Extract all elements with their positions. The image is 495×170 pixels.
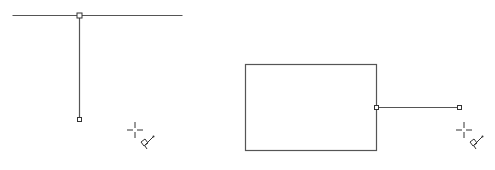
connector-end-dot [153, 136, 155, 138]
rectangle-shape[interactable] [246, 65, 377, 151]
right-panel [246, 65, 484, 151]
connector-tail [145, 146, 147, 149]
connector-end-dot [482, 136, 484, 138]
connector-tail [474, 146, 476, 149]
start-handle[interactable] [77, 13, 82, 18]
left-panel [13, 13, 183, 149]
end-handle[interactable] [78, 118, 82, 122]
crosshair-connector-cursor-icon [456, 122, 484, 149]
start-handle[interactable] [375, 106, 379, 110]
diagram-canvas [0, 0, 495, 170]
end-handle[interactable] [458, 106, 462, 110]
crosshair-connector-cursor-icon [127, 122, 155, 149]
